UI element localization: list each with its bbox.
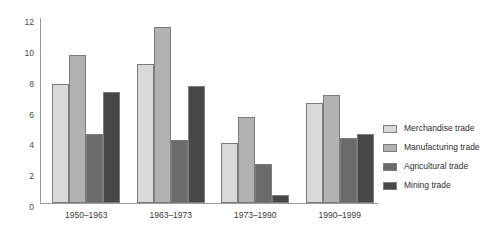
bar[interactable] (86, 134, 103, 203)
x-axis-category-label: 1950–1963 (65, 211, 108, 220)
bar-chart: 024681012 1950–19631963–19731973–1990199… (0, 0, 503, 238)
legend-item-label: Agricultural trade (404, 162, 468, 171)
chart-legend: Merchandise tradeManufacturing tradeAgri… (383, 119, 501, 195)
x-axis-category-label: 1963–1973 (149, 211, 192, 220)
legend-item[interactable]: Manufacturing trade (383, 138, 501, 157)
bar[interactable] (52, 84, 69, 203)
bar-group (221, 18, 289, 203)
x-axis-category-label: 1990–1999 (318, 211, 361, 220)
plot-area: 024681012 1950–19631963–19731973–1990199… (40, 18, 378, 203)
x-axis-line (40, 203, 378, 204)
bar[interactable] (69, 55, 86, 203)
bar[interactable] (272, 195, 289, 203)
bar-group (52, 18, 120, 203)
bar[interactable] (357, 134, 374, 203)
bar[interactable] (188, 86, 205, 203)
bar[interactable] (238, 117, 255, 203)
bar-group (306, 18, 374, 203)
y-axis-line (40, 18, 41, 204)
bar[interactable] (221, 143, 238, 203)
bar[interactable] (103, 92, 120, 203)
legend-swatch-icon (383, 144, 397, 152)
bar[interactable] (255, 164, 272, 203)
bar[interactable] (154, 27, 171, 203)
legend-swatch-icon (383, 163, 397, 171)
legend-swatch-icon (383, 182, 397, 190)
bar[interactable] (340, 138, 357, 203)
bar-group (137, 18, 205, 203)
legend-item[interactable]: Merchandise trade (383, 119, 501, 138)
legend-item-label: Manufacturing trade (404, 143, 480, 152)
legend-item-label: Merchandise trade (404, 124, 474, 133)
bar[interactable] (137, 64, 154, 203)
bar[interactable] (171, 140, 188, 203)
bar[interactable] (306, 103, 323, 203)
legend-item-label: Mining trade (404, 181, 451, 190)
bar[interactable] (323, 95, 340, 203)
x-axis-category-label: 1973–1990 (234, 211, 277, 220)
legend-item[interactable]: Agricultural trade (383, 157, 501, 176)
legend-item[interactable]: Mining trade (383, 176, 501, 195)
legend-swatch-icon (383, 125, 397, 133)
